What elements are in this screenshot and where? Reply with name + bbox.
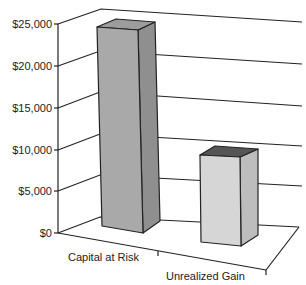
gridline-25000 [58, 9, 302, 24]
bar-unrealized-gain[interactable] [200, 146, 258, 246]
gridline-10000 [58, 134, 302, 150]
bar-front-face [200, 155, 241, 246]
floor [58, 217, 299, 275]
y-tick-label-5000: $5,000 [0, 185, 52, 197]
gridline-20000 [58, 51, 302, 66]
bar-side-face [240, 149, 258, 246]
bar-capital-at-risk[interactable] [97, 19, 160, 233]
y-tick-label-0: $0 [0, 227, 52, 239]
chart-canvas [0, 0, 306, 285]
bar-front-face [97, 27, 143, 233]
x-category-label-unrealized-gain: Unrealized Gain [166, 270, 245, 282]
y-tick-label-20000: $20,000 [0, 60, 52, 72]
x-category-label-capital-at-risk: Capital at Risk [68, 251, 139, 263]
y-axis [54, 24, 58, 233]
gridline-5000 [58, 175, 302, 191]
y-tick-label-15000: $15,000 [0, 102, 52, 114]
floor-back-edge [58, 217, 299, 233]
gridlines [58, 9, 302, 191]
floor-right-edge [266, 227, 299, 270]
y-tick-label-10000: $10,000 [0, 144, 52, 156]
gridline-15000 [58, 92, 302, 108]
y-tick-label-25000: $25,000 [0, 18, 52, 30]
